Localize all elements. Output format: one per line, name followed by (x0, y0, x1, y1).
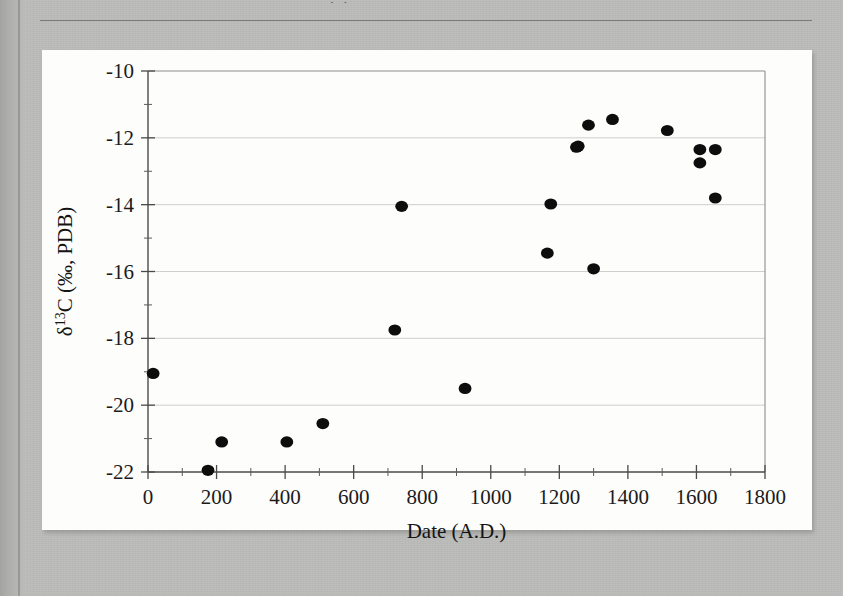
scan-gutter (0, 0, 26, 596)
cropped-caption-fragment: . . (330, 0, 590, 3)
scan-gutter-line (18, 0, 20, 596)
figure-panel (42, 50, 812, 530)
horizontal-rule (40, 20, 812, 21)
scanned-page: . . 020040060080010001200140016001800 -1… (0, 0, 843, 596)
